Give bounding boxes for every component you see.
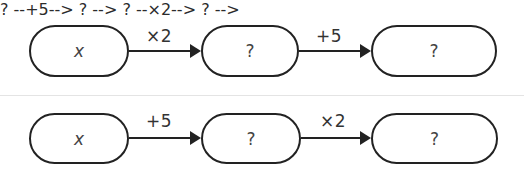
intermediate-node: ? [201, 113, 301, 164]
node-label: ? [430, 129, 439, 149]
intermediate-node: ? [201, 25, 299, 77]
arrow-icon [129, 50, 199, 52]
flow-diagram-2: x +5 ? ×2 ? [0, 88, 524, 178]
operation-label: +5 [146, 111, 172, 131]
flow-diagram-1: x ×2 ? +5 ? [0, 0, 524, 90]
node-label: ? [429, 41, 438, 61]
operation-label: ×2 [146, 26, 172, 46]
node-label: ? [245, 41, 254, 61]
operation-label: +5 [316, 26, 342, 46]
arrow-icon [129, 137, 199, 139]
node-label: x [74, 129, 84, 149]
input-node: x [29, 113, 129, 164]
node-label: x [74, 41, 84, 61]
output-node: ? [371, 25, 497, 77]
arrow-icon [301, 137, 369, 139]
arrow-icon [299, 50, 369, 52]
operation-label: ×2 [320, 111, 346, 131]
input-node: x [29, 25, 129, 77]
node-label: ? [246, 129, 255, 149]
output-node: ? [371, 113, 498, 164]
